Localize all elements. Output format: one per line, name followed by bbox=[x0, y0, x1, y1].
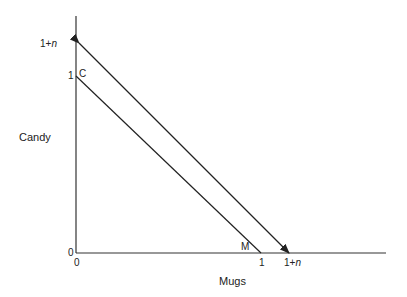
x-tick-1-plus-n: 1+n bbox=[284, 258, 301, 268]
diagram-canvas bbox=[0, 0, 407, 297]
budget-line-original bbox=[76, 76, 261, 253]
budget-line-rotated bbox=[79, 43, 289, 253]
y-axis-title: Candy bbox=[19, 132, 51, 142]
label-m: M bbox=[241, 242, 249, 252]
x-tick-1: 1 bbox=[259, 258, 265, 268]
x-tick-0: 0 bbox=[74, 258, 80, 268]
x-axis-title: Mugs bbox=[219, 276, 246, 286]
y-tick-0: 0 bbox=[68, 248, 74, 258]
label-c: C bbox=[79, 69, 86, 79]
y-tick-1: 1 bbox=[68, 71, 74, 81]
y-tick-1-plus-n: 1+n bbox=[40, 39, 57, 49]
